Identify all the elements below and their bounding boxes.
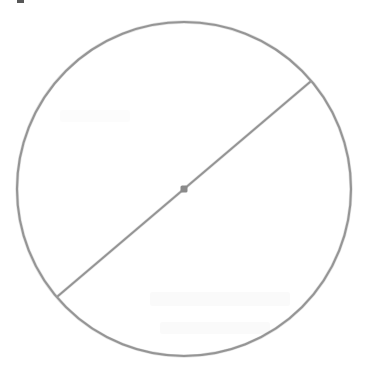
circle-diagram-svg — [0, 0, 366, 378]
geometry-figure-canvas — [0, 0, 366, 378]
center-point-dot — [181, 186, 188, 193]
